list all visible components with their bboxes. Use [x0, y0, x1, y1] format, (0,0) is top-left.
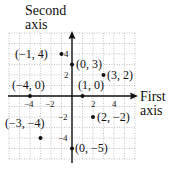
- tick-y-2: 2: [64, 70, 69, 80]
- label-0-m5: (0, −5): [75, 141, 108, 155]
- x-axis-title-line1: First: [140, 89, 166, 104]
- point-0-3: [70, 63, 74, 67]
- point-m4-0: [28, 94, 32, 98]
- label-2-m2: (2, −2): [97, 110, 130, 124]
- point-1-0: [81, 94, 85, 98]
- label-3-2: (3, 2): [107, 68, 133, 82]
- label-m1-4: (−1, 4): [15, 47, 48, 61]
- label-m4-0: (−4, 0): [12, 78, 45, 92]
- tick-y-minus4: −4: [58, 133, 68, 143]
- point-2-m2: [91, 115, 95, 119]
- label-0-3: (0, 3): [76, 57, 102, 71]
- x-axis-arrow-icon: [130, 93, 138, 100]
- tick-x-2: 2: [91, 99, 96, 109]
- tick-y-4: 4: [64, 49, 69, 59]
- tick-x-minus4: −4: [24, 99, 34, 109]
- label-1-0: (1, 0): [78, 78, 104, 92]
- y-axis-title-line1: Second: [25, 3, 66, 18]
- point-0-m5: [70, 147, 74, 151]
- x-axis-title-line2: axis: [140, 103, 163, 118]
- point-3-2: [102, 73, 106, 77]
- label-m3-m4: (−3, −4): [5, 116, 45, 130]
- tick-x-minus2: −2: [45, 99, 55, 109]
- y-axis-title-line2: axis: [25, 17, 48, 32]
- point-m3-m4: [39, 136, 43, 140]
- tick-x-4: 4: [112, 99, 117, 109]
- coordinate-plane: Second axis First axis −4 −2 2 4 4 2 −2 …: [0, 0, 170, 170]
- tick-y-minus2: −2: [58, 112, 68, 122]
- point-m1-4: [60, 52, 64, 56]
- y-axis-arrow-icon: [69, 31, 76, 39]
